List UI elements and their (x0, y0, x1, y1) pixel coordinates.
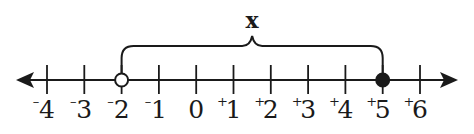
positive-sign: + (254, 94, 265, 109)
negative-sign: – (70, 94, 77, 109)
tick-label: 1 (151, 95, 167, 124)
number-line-svg: 4–3–2–1–01+2+3+4+5+6+ x (0, 0, 474, 134)
positive-sign: + (217, 94, 228, 109)
positive-sign: + (366, 94, 377, 109)
positive-sign: + (329, 94, 340, 109)
positive-sign: + (404, 94, 415, 109)
negative-sign: – (107, 94, 114, 109)
number-line-diagram: 4–3–2–1–01+2+3+4+5+6+ x (0, 0, 474, 134)
open-endpoint-circle (115, 74, 128, 87)
closed-endpoint-dot (376, 74, 389, 87)
tick-label: 2 (114, 95, 130, 124)
tick-label: 3 (76, 95, 92, 124)
variable-label: x (246, 7, 260, 33)
interval-brace (122, 36, 383, 80)
negative-sign: – (145, 94, 152, 109)
tick-label: 4 (39, 95, 55, 124)
positive-sign: + (292, 94, 303, 109)
tick-label: 0 (188, 95, 204, 124)
negative-sign: – (33, 94, 40, 109)
tick-labels: 4–3–2–1–01+2+3+4+5+6+ (33, 94, 428, 124)
